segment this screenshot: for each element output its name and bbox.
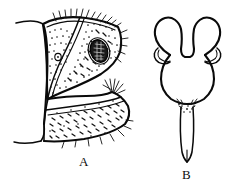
- panel-b-drawing: [154, 18, 220, 162]
- right-bulb: [193, 18, 220, 55]
- left-lateral-appendage: [154, 48, 170, 64]
- panel-label-a: A: [79, 155, 89, 168]
- panel-label-b: B: [182, 168, 191, 181]
- small-pale-pit: [55, 53, 61, 60]
- panel-a-drawing: [14, 9, 133, 148]
- median-notch: [181, 49, 194, 57]
- stippling-lower-lobe: [50, 104, 124, 138]
- plate-drawing: [0, 0, 241, 189]
- tapering-stylet: [180, 107, 193, 162]
- right-lateral-appendage: [205, 48, 221, 64]
- marginal-setae-tuft: [103, 79, 125, 94]
- left-bulb: [155, 18, 182, 55]
- figure-plate: A B: [0, 0, 241, 189]
- body-margin-line: [14, 21, 47, 143]
- basal-granulation: [177, 99, 197, 113]
- lower-lobe-outline: [44, 92, 129, 141]
